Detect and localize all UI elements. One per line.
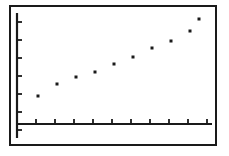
calculator-plot-screen bbox=[0, 0, 229, 156]
data-point-6 bbox=[151, 47, 154, 50]
data-point-0 bbox=[37, 95, 40, 98]
data-point-3 bbox=[94, 71, 97, 74]
data-point-1 bbox=[56, 83, 59, 86]
data-point-5 bbox=[132, 56, 135, 59]
data-points bbox=[37, 18, 201, 98]
data-point-9 bbox=[198, 18, 201, 21]
data-point-2 bbox=[75, 76, 78, 79]
data-point-8 bbox=[189, 30, 192, 33]
data-point-7 bbox=[170, 40, 173, 43]
data-point-4 bbox=[113, 63, 116, 66]
scatter-plot-svg bbox=[0, 0, 229, 156]
